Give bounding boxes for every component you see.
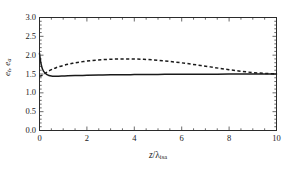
x-tick-label: 2 [75, 134, 99, 143]
x-axis-title: z/λisa [39, 150, 277, 162]
y-axis-title-e1: e [2, 72, 12, 76]
x-tick-label: 0 [28, 134, 52, 143]
y-axis-title-sub1: t [5, 70, 12, 72]
x-axis-tick-labels: 0246810 [0, 134, 293, 148]
y-axis-title-sub2: a [5, 58, 12, 61]
y-tick-label: 3.0 [2, 13, 36, 22]
x-tick-label: 6 [170, 134, 194, 143]
x-axis-title-subscript: isa [160, 153, 167, 160]
y-tick-label: 0.5 [2, 107, 36, 116]
x-tick-label: 4 [122, 134, 146, 143]
y-axis-title: et, ea [3, 37, 13, 97]
chart-figure: 0.00.51.01.52.02.53.0 0246810 et, ea z/λ… [0, 0, 293, 173]
x-tick-label: 10 [265, 134, 289, 143]
y-axis-title-comma: , [2, 66, 12, 71]
x-tick-label: 8 [217, 134, 241, 143]
y-axis-title-e2: e [2, 62, 12, 66]
plot-area [39, 17, 277, 131]
